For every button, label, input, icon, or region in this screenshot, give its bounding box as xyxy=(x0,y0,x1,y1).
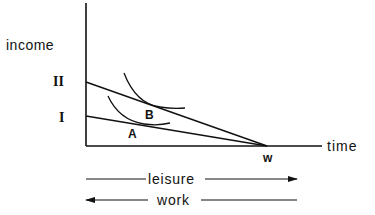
income-leisure-diagram: income time II I B A w leisure work xyxy=(0,0,375,215)
budget-line-II xyxy=(86,82,267,146)
x-axis-label: time xyxy=(327,138,357,154)
income-level-II-label: II xyxy=(53,74,64,89)
point-A-label: A xyxy=(128,127,137,141)
work-label: work xyxy=(156,192,190,208)
point-w-label: w xyxy=(262,151,273,165)
point-B-label: B xyxy=(145,108,154,122)
budget-line-I xyxy=(86,116,267,146)
indifference-curve-B xyxy=(124,73,185,108)
income-level-I-label: I xyxy=(59,110,64,125)
y-axis-label: income xyxy=(6,37,54,53)
leisure-label: leisure xyxy=(148,171,195,187)
